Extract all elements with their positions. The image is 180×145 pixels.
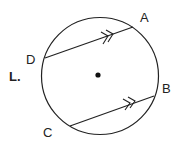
chord-cb (70, 96, 154, 126)
chord-da (45, 27, 133, 58)
label-b: B (162, 81, 171, 96)
center-point (95, 72, 100, 77)
label-c: C (43, 125, 52, 140)
label-d: D (26, 52, 35, 67)
parallel-marks-icon (101, 30, 135, 110)
problem-label: L. (9, 69, 21, 84)
label-a: A (140, 10, 149, 25)
circle-diagram: A D L. B C (0, 0, 180, 145)
